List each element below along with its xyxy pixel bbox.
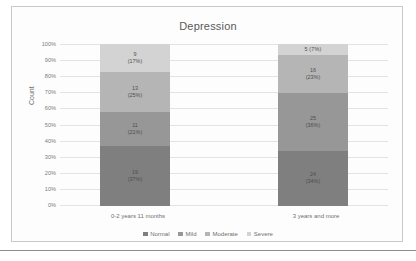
bar-segment-severe[interactable]: 9 (17%)	[100, 44, 170, 72]
y-tick-label: 100%	[42, 41, 56, 47]
bar-segment-mild[interactable]: 25 (36%)	[278, 93, 348, 151]
segment-count: 9	[134, 51, 137, 58]
y-tick-label: 50%	[45, 122, 56, 128]
legend-swatch-icon	[247, 232, 252, 237]
legend-swatch-icon	[143, 232, 148, 237]
legend-label: Normal	[150, 231, 169, 237]
y-tick-label: 10%	[45, 186, 56, 192]
legend-swatch-icon	[205, 232, 210, 237]
segment-count: 11	[132, 122, 138, 129]
segment-count: 19	[132, 169, 138, 176]
legend-label: Severe	[254, 231, 273, 237]
bar-segment-moderate[interactable]: 13 (25%)	[100, 72, 170, 113]
legend-label: Moderate	[212, 231, 237, 237]
chart-legend: Normal Mild Moderate Severe	[12, 231, 404, 237]
page-bottom-rule	[0, 250, 416, 251]
y-tick-label: 30%	[45, 154, 56, 160]
segment-count: 13	[132, 85, 138, 92]
y-axis-title: Count	[28, 86, 35, 105]
segment-percent: (21%)	[128, 129, 142, 136]
y-tick-label: 0%	[48, 202, 56, 208]
bar-segment-moderate[interactable]: 16 (23%)	[278, 55, 348, 92]
y-tick-label: 40%	[45, 138, 56, 144]
legend-item-normal[interactable]: Normal	[143, 231, 169, 237]
bar-segment-mild[interactable]: 11 (21%)	[100, 112, 170, 146]
segment-percent: (23%)	[306, 74, 320, 81]
y-tick-label: 80%	[45, 73, 56, 79]
segment-percent: (17%)	[128, 58, 142, 65]
stacked-bar-0-2-years-11-months[interactable]: 9 (17%) 13 (25%) 11 (21%) 19 (37%)	[100, 44, 170, 206]
segment-count: 16	[310, 67, 316, 74]
chart-title: Depression	[12, 20, 404, 32]
plot-area: 100% 90% 80% 70% 60% 50% 40% 30%	[60, 44, 388, 207]
legend-item-mild[interactable]: Mild	[178, 231, 196, 237]
stacked-bar-3-years-and-more[interactable]: 5 (7%) 16 (23%) 25 (36%) 24 (34%)	[278, 44, 348, 206]
y-tick-label: 90%	[45, 57, 56, 63]
x-axis-category-label: 3 years and more	[238, 213, 394, 219]
y-tick-label: 20%	[45, 170, 56, 176]
segment-percent: (37%)	[128, 176, 142, 183]
segment-count-percent: 5 (7%)	[304, 46, 321, 53]
legend-label: Mild	[185, 231, 196, 237]
chart-frame: Depression Count 100% 90% 80% 70% 60% 50…	[11, 6, 403, 242]
legend-swatch-icon	[178, 232, 183, 237]
x-axis-category-label: 0-2 years 11 months	[60, 213, 216, 219]
y-tick-label: 60%	[45, 105, 56, 111]
legend-item-severe[interactable]: Severe	[247, 231, 273, 237]
bar-segment-severe[interactable]: 5 (7%)	[278, 44, 348, 55]
bar-segment-normal[interactable]: 19 (37%)	[100, 146, 170, 206]
legend-item-moderate[interactable]: Moderate	[205, 231, 237, 237]
segment-count: 25	[310, 115, 316, 122]
segment-percent: (25%)	[128, 92, 142, 99]
segment-percent: (34%)	[306, 178, 320, 185]
segment-count: 24	[310, 171, 316, 178]
segment-percent: (36%)	[306, 122, 320, 129]
chart-screenshot: Depression Count 100% 90% 80% 70% 60% 50…	[0, 0, 416, 261]
y-tick-label: 70%	[45, 89, 56, 95]
bar-segment-normal[interactable]: 24 (34%)	[278, 151, 348, 206]
